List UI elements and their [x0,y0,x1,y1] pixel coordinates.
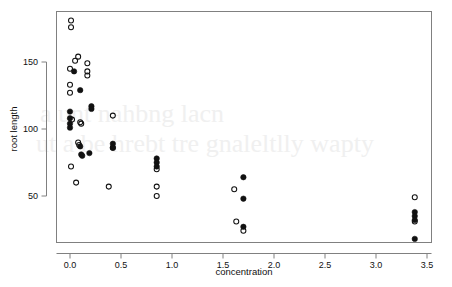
data-point-open [69,18,74,23]
data-point-open [412,195,417,200]
data-point-open [74,180,79,185]
plot-canvas: a unt nahbng lacn ut a be hrebt tre gnal… [0,0,452,287]
data-point-filled [67,109,72,114]
y-axis-ticks: 50100150 [23,57,47,201]
y-tick-label: 100 [23,124,38,134]
data-point-open [154,194,159,199]
data-point-filled [154,164,159,169]
data-point-filled [89,106,94,111]
scatter-plot-figure: a unt nahbng lacn ut a be hrebt tre gnal… [0,0,452,287]
data-point-open [154,184,159,189]
data-point-filled [78,144,83,149]
y-axis-label: root length [8,107,19,152]
data-point-open [106,184,111,189]
data-point-open [68,82,73,87]
data-point-open [73,58,78,63]
data-point-filled [241,196,246,201]
x-tick-label: 0.5 [115,260,128,270]
data-point-filled [78,87,83,92]
data-point-filled [71,69,76,74]
data-point-open [234,219,239,224]
data-point-filled [241,175,246,180]
x-tick-label: 2.5 [319,260,332,270]
data-point-open [69,25,74,30]
x-axis-label: concentration [215,266,272,277]
data-point-filled [87,150,92,155]
data-point-filled [412,217,417,222]
data-point-filled [67,116,72,121]
y-tick-label: 50 [28,191,38,201]
x-tick-label: 3.0 [370,260,383,270]
data-point-filled [412,236,417,241]
data-point-open [85,61,90,66]
data-point-filled [110,145,115,150]
x-tick-label: 3.5 [421,260,434,270]
y-tick-label: 150 [23,57,38,67]
data-point-filled [241,224,246,229]
data-point-filled [80,153,85,158]
data-point-open [68,90,73,95]
x-tick-label: 1.0 [166,260,179,270]
data-point-open [232,187,237,192]
background-ghost-text: a unt nahbng lacn ut a be hrebt tre gnal… [36,99,374,158]
data-point-open [69,164,74,169]
data-point-filled [67,125,72,130]
x-tick-label: 0.0 [64,260,77,270]
